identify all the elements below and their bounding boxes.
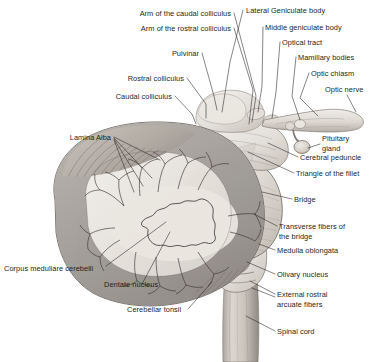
label-arm-of-the-caudal-colliculus: Arm of the caudal colliculus bbox=[140, 9, 232, 18]
label-medulla-oblongata: Medulla oblongata bbox=[277, 246, 339, 255]
label-mamillary-bodies: Mamillary bodies bbox=[298, 53, 355, 62]
label-corpus-medullare-cerebelli: Corpus medullare cerebelli bbox=[4, 264, 94, 273]
label-olivary-nucleus: Olivary nucleus bbox=[277, 270, 329, 279]
label-lateral-geniculate-body: Lateral Geniculate body bbox=[246, 6, 325, 15]
anatomy-figure: Arm of the caudal colliculus Lateral Gen… bbox=[0, 0, 378, 362]
label-middle-geniculate-body: Middle geniculate body bbox=[265, 23, 342, 32]
label-optic-nerve: Optic nerve bbox=[325, 85, 363, 94]
label-spinal-cord: Spinal cord bbox=[277, 327, 315, 336]
label-transverse-fibers-line2: the bridge bbox=[279, 232, 312, 241]
label-optical-tract: Optical tract bbox=[282, 38, 322, 47]
label-dentate-nucleus: Dentate nucleus bbox=[104, 280, 158, 289]
label-rostral-colliculus: Rostral colliculus bbox=[128, 74, 185, 83]
label-optic-chiasm: Optic chiasm bbox=[311, 69, 354, 78]
label-pituitary-gland-line1: Pituitary bbox=[322, 134, 349, 143]
label-lamina-alba: Lamina Alba bbox=[70, 133, 112, 142]
label-pituitary-gland-line2: gland bbox=[322, 144, 340, 153]
label-caudal-colliculus: Caudal colliculus bbox=[116, 92, 173, 101]
label-cerebellar-tonsil: Cerebellar tonsil bbox=[127, 305, 182, 314]
label-bridge: Bridge bbox=[294, 195, 316, 204]
label-external-rostral-line2: arcuate fibers bbox=[277, 300, 323, 309]
label-arm-of-the-rostral-colliculus: Arm of the rostral colliculus bbox=[141, 24, 231, 33]
label-triangle-of-the-fillet: Triangle of the fillet bbox=[296, 169, 359, 178]
label-external-rostral-line1: External rostral bbox=[277, 290, 328, 299]
label-pulvinar: Pulvinar bbox=[172, 49, 200, 58]
label-cerebral-peduncle: Cerebral peduncle bbox=[300, 153, 361, 162]
anatomy-illustration: Arm of the caudal colliculus Lateral Gen… bbox=[0, 0, 378, 362]
cerebellum-cross-section bbox=[54, 120, 264, 306]
label-transverse-fibers-line1: Transverse fibers of bbox=[279, 222, 346, 231]
